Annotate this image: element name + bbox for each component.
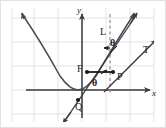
point-F-dot (85, 70, 89, 74)
label-point-P: P (117, 72, 123, 82)
label-angle-lower: θ (92, 78, 97, 88)
x-axis-label: x (152, 89, 156, 98)
parabola-diagram (0, 0, 166, 128)
point-P-dot (111, 70, 115, 74)
label-point-F: F (77, 64, 83, 74)
label-angle-upper: θ (110, 38, 115, 48)
figure-container: y x L T F P Q θ θ (0, 0, 166, 128)
y-axis-label: y (77, 6, 81, 15)
label-line-T: T (143, 45, 149, 55)
label-line-L: L (100, 27, 106, 37)
label-point-Q: Q (75, 102, 82, 112)
